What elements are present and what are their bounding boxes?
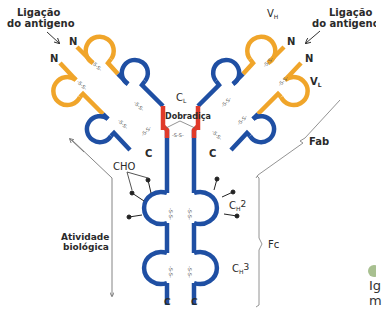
- terminus-labels: N N N N C C C C: [50, 36, 313, 307]
- svg-text:C: C: [191, 297, 198, 307]
- svg-text:-S-S-: -S-S-: [172, 132, 184, 138]
- svg-text:-S-S-: -S-S-: [117, 118, 130, 131]
- fc-stem: [144, 130, 217, 305]
- domain-labels: VH VL CL CH2 CH3 CHO: [113, 8, 322, 275]
- svg-text:biológica: biológica: [63, 242, 109, 252]
- svg-text:-S-S-: -S-S-: [168, 266, 174, 278]
- svg-text:do antigeno: do antigeno: [312, 18, 376, 29]
- svg-text:C: C: [209, 148, 216, 159]
- svg-text:-S-S-: -S-S-: [187, 208, 193, 220]
- svg-text:N: N: [50, 53, 58, 64]
- svg-text:Ligação: Ligação: [17, 7, 60, 18]
- svg-text:N: N: [305, 53, 313, 64]
- fc-label: Fc: [268, 239, 279, 250]
- svg-text:-S-S-: -S-S-: [187, 266, 193, 278]
- svg-text:C: C: [145, 148, 152, 159]
- legend-dot: [368, 265, 376, 277]
- antigen-binding-right-label: Ligação do antigeno: [306, 7, 376, 43]
- svg-text:-S-S-: -S-S-: [236, 114, 249, 127]
- svg-text:-S-S-: -S-S-: [211, 129, 224, 142]
- svg-text:N: N: [69, 36, 77, 47]
- svg-text:-S-S-: -S-S-: [168, 208, 174, 220]
- svg-text:-S-S-: -S-S-: [220, 96, 233, 109]
- svg-text:VL: VL: [310, 76, 322, 88]
- svg-text:CHO: CHO: [113, 161, 136, 172]
- biological-activity-arrow: Atividade biológica: [61, 139, 112, 296]
- svg-text:-S-S-: -S-S-: [133, 100, 146, 113]
- partial-text-line1: Ig: [369, 278, 381, 293]
- fab-fc-braces: [256, 100, 340, 307]
- svg-text:C: C: [164, 297, 171, 307]
- svg-text:-S-S-: -S-S-: [91, 60, 104, 73]
- svg-text:Dobradiça: Dobradiça: [165, 112, 211, 121]
- svg-text:-S-S-: -S-S-: [140, 125, 153, 138]
- svg-text:Ligação: Ligação: [329, 7, 372, 18]
- svg-text:CH2: CH2: [229, 199, 246, 212]
- antigen-binding-left-label: Ligação do antigeno: [7, 7, 75, 43]
- fab-label: Fab: [309, 136, 329, 147]
- svg-text:CL: CL: [176, 92, 187, 104]
- svg-text:Atividade: Atividade: [61, 232, 109, 242]
- svg-text:-S-S-: -S-S-: [76, 79, 89, 92]
- svg-text:N: N: [287, 36, 295, 47]
- hinge-label: Dobradiça: [165, 112, 211, 128]
- svg-text:VH: VH: [267, 8, 278, 20]
- partial-text-line2: m: [369, 293, 382, 308]
- svg-text:do antigeno: do antigeno: [7, 18, 75, 29]
- svg-text:CH3: CH3: [232, 262, 249, 275]
